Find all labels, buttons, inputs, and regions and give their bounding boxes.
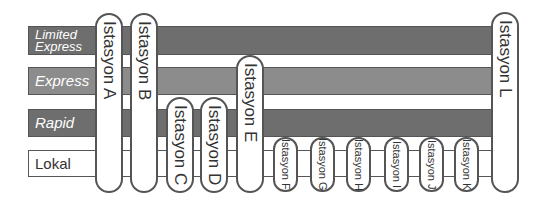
service-pattern-diagram: LimitedExpressExpressRapidLokal Istasyon… — [0, 0, 544, 208]
station-pillar: Istasyon C — [166, 97, 194, 193]
station-pillar: Istasyon F — [273, 137, 298, 192]
service-label: Rapid — [28, 109, 96, 137]
station-pillar: Istasyon B — [130, 13, 158, 193]
station-name: Istasyon D — [204, 105, 224, 185]
station-name: Istasyon A — [99, 21, 119, 99]
service-label-line: Lokal — [35, 155, 95, 173]
station-pillar: Istasyon J — [419, 137, 444, 192]
station-name: Istasyon K — [461, 139, 473, 190]
station-pillar: Istasyon A — [95, 13, 123, 193]
service-label: Lokal — [28, 150, 96, 177]
station-name: Istasyon L — [495, 20, 515, 98]
station-pillar: Istasyon I — [384, 137, 409, 192]
station-name: Istasyon F — [280, 139, 292, 190]
service-label: Express — [28, 67, 96, 95]
station-pillar: Istasyon L — [491, 12, 519, 193]
service-label-line: Express — [35, 72, 95, 90]
station-pillar: Istasyon D — [200, 97, 228, 193]
station-pillar: Istasyon G — [310, 137, 335, 192]
station-pillar: Istasyon E — [236, 55, 264, 193]
station-name: Istasyon J — [426, 140, 438, 190]
service-label-line: Rapid — [35, 114, 95, 132]
station-name: Istasyon E — [240, 63, 260, 142]
station-name: Istasyon H — [353, 139, 365, 191]
station-name: Istasyon B — [134, 21, 154, 100]
station-pillar: Istasyon K — [454, 137, 479, 192]
service-label: LimitedExpress — [28, 26, 96, 55]
station-name: Istasyon G — [317, 138, 329, 191]
station-name: Istasyon I — [391, 141, 403, 188]
service-label-line: Express — [35, 41, 95, 53]
station-pillar: Istasyon H — [346, 137, 371, 192]
station-name: Istasyon C — [170, 105, 190, 185]
